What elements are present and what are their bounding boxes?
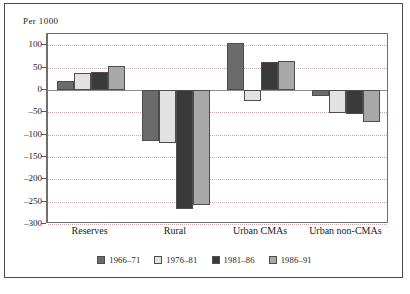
legend-label: 1966–71: [109, 255, 140, 265]
bar[interactable]: [227, 43, 244, 90]
bar[interactable]: [108, 66, 125, 90]
bar[interactable]: [244, 90, 261, 102]
legend-label: 1986–91: [281, 255, 312, 265]
bar[interactable]: [176, 90, 193, 209]
bar[interactable]: [312, 90, 329, 96]
plot-inner: [48, 34, 387, 222]
bar-group: [227, 34, 295, 222]
legend-item[interactable]: 1966–71: [97, 255, 140, 265]
bar-group: [142, 34, 210, 222]
caption-strip: [4, 282, 403, 293]
bar-group: [57, 34, 125, 222]
bar[interactable]: [346, 90, 363, 115]
legend-label: 1981–86: [224, 255, 255, 265]
legend-swatch-icon: [154, 256, 162, 264]
x-axis-category-labels: ReservesRuralUrban CMAsUrban non-CMAs: [47, 225, 388, 241]
bar[interactable]: [329, 90, 346, 113]
legend-swatch-icon: [212, 256, 220, 264]
legend-label: 1976–81: [166, 255, 197, 265]
bar[interactable]: [193, 90, 210, 205]
x-axis-category-label: Rural: [164, 225, 186, 236]
bar[interactable]: [261, 62, 278, 90]
y-axis-tick-labels: 100500–50–100–150–200–250–300: [5, 33, 47, 223]
plot-area: [47, 33, 388, 223]
bar[interactable]: [363, 90, 380, 122]
chart-legend: 1966–711976–811981–861986–91: [5, 255, 404, 265]
bar[interactable]: [57, 81, 74, 90]
legend-swatch-icon: [269, 256, 277, 264]
bar-group: [312, 34, 380, 222]
x-axis-category-label: Urban CMAs: [233, 225, 287, 236]
legend-item[interactable]: 1986–91: [269, 255, 312, 265]
legend-item[interactable]: 1981–86: [212, 255, 255, 265]
x-axis-category-label: Urban non-CMAs: [309, 225, 382, 236]
bar[interactable]: [278, 61, 295, 90]
chart-figure: Per 1000 100500–50–100–150–200–250–300 R…: [4, 3, 403, 278]
x-axis-category-label: Reserves: [72, 225, 108, 236]
bar[interactable]: [142, 90, 159, 141]
bar[interactable]: [74, 73, 91, 90]
legend-swatch-icon: [97, 256, 105, 264]
bar[interactable]: [91, 72, 108, 90]
legend-item[interactable]: 1976–81: [154, 255, 197, 265]
axis-unit-label: Per 1000: [23, 16, 58, 26]
y-axis-tick-mark: [41, 223, 46, 224]
bar[interactable]: [159, 90, 176, 143]
